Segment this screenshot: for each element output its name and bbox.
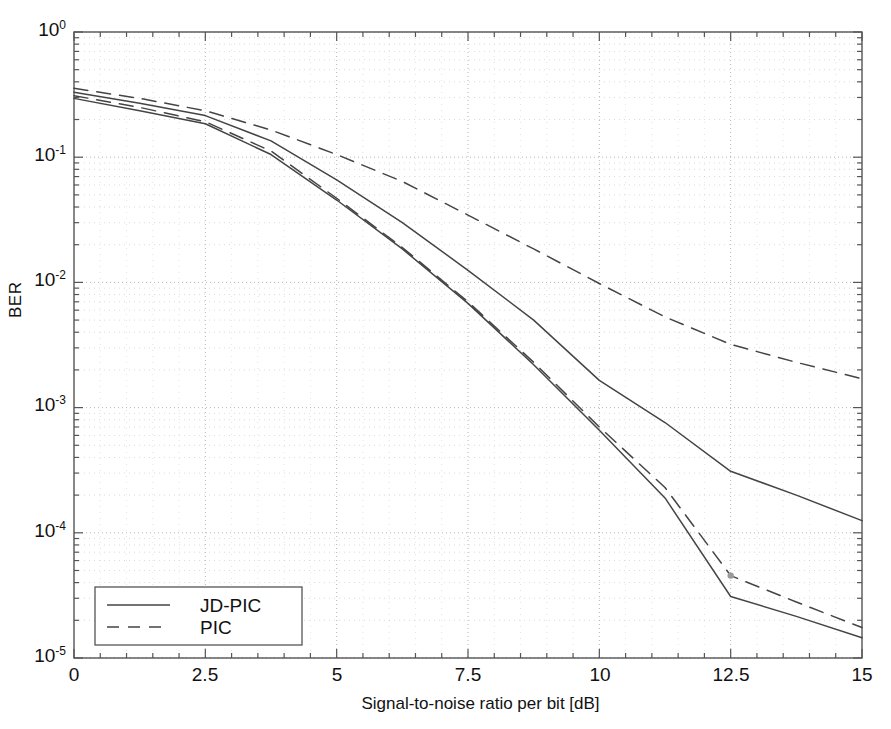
y-axis-label: BER: [6, 282, 26, 318]
y-tick-exponent: -1: [55, 143, 66, 157]
x-axis-label-text: Signal-to-noise ratio per bit [dB]: [361, 694, 599, 713]
x-tick-15: 15: [851, 664, 872, 686]
y-tick-exponent: 0: [59, 18, 66, 32]
y-tick-mantissa: 10: [34, 144, 55, 165]
curve-pic-upper: [74, 88, 862, 378]
plot-area: JD-PICPIC: [0, 0, 891, 729]
legend-label-jd-pic: JD-PIC: [200, 595, 261, 616]
x-tick-0: 0: [69, 664, 80, 686]
x-tick-12.5: 12.5: [713, 664, 750, 686]
x-tick-10: 10: [589, 664, 610, 686]
legend-frame[interactable]: [95, 587, 302, 645]
y-tick-exponent: -3: [55, 393, 66, 407]
chart-annotations: [727, 572, 733, 578]
x-tick-5: 5: [332, 664, 343, 686]
y-tick-mantissa: 10: [34, 520, 55, 541]
y-tick-exponent: -5: [55, 644, 66, 658]
curve-pic-lower: [74, 96, 862, 628]
minor-gridlines: [74, 32, 862, 658]
x-tick-7.5: 7.5: [455, 664, 481, 686]
chart-figure: BER 100 10-1 10-2 10-3 10-4 10-5 0 2.5 5…: [0, 0, 891, 729]
legend-label-pic: PIC: [200, 617, 232, 638]
y-tick-mantissa: 10: [34, 394, 55, 415]
marker-dot: [727, 572, 733, 578]
x-axis-label: Signal-to-noise ratio per bit [dB]: [0, 694, 891, 714]
data-curves: [74, 88, 862, 637]
y-tick-exponent: -2: [55, 268, 66, 282]
y-tick-mantissa: 10: [34, 269, 55, 290]
y-tick-mantissa: 10: [38, 19, 59, 40]
y-tick-mantissa: 10: [34, 645, 55, 666]
legend-box[interactable]: JD-PICPIC: [95, 587, 302, 645]
y-tick-exponent: -4: [55, 519, 66, 533]
x-tick-2.5: 2.5: [192, 664, 218, 686]
